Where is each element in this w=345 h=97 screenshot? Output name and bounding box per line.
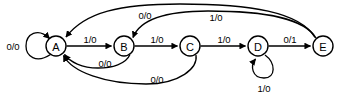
- edge-label-e-b: 1/0: [209, 12, 222, 23]
- state-node-a[interactable]: A: [46, 36, 66, 56]
- edge-label-d-e: 0/1: [283, 34, 296, 45]
- edge-path-e-a: [66, 4, 315, 38]
- transition-a-to-b: 1/0: [67, 34, 112, 47]
- state-machine-diagram: 0/0 1/0 1/0 1/0 0/1 1/0 0/: [0, 0, 345, 97]
- edge-label-a-a: 0/0: [6, 41, 19, 52]
- edge-label-e-a: 0/0: [138, 10, 151, 21]
- edge-label-b-c: 1/0: [150, 34, 163, 45]
- state-node-e[interactable]: E: [313, 36, 333, 56]
- state-label-e: E: [319, 41, 326, 53]
- edge-path-c-a: [64, 55, 197, 84]
- state-label-d: D: [254, 41, 262, 53]
- transition-c-to-d: 1/0: [201, 34, 246, 47]
- state-label-c: C: [186, 41, 194, 53]
- edge-label-c-a: 0/0: [150, 74, 163, 85]
- edge-label-a-b: 1/0: [83, 34, 96, 45]
- edge-label-b-a: 0/0: [98, 58, 111, 69]
- edge-path-d-d: [253, 55, 274, 78]
- diagram-canvas: 0/0 1/0 1/0 1/0 0/1 1/0 0/: [0, 0, 345, 97]
- edge-label-c-d: 1/0: [217, 34, 230, 45]
- edge-path-b-a: [65, 55, 131, 69]
- transition-b-to-c: 1/0: [135, 34, 178, 47]
- state-node-d[interactable]: D: [248, 36, 268, 56]
- state-node-b[interactable]: B: [114, 36, 134, 56]
- state-node-c[interactable]: C: [180, 36, 200, 56]
- transition-a-to-a: 0/0: [6, 33, 50, 59]
- edge-label-d-d: 1/0: [257, 83, 270, 94]
- transition-d-to-d: 1/0: [253, 55, 274, 94]
- transition-c-to-a: 0/0: [64, 55, 197, 85]
- transition-e-to-a: 0/0: [66, 4, 315, 38]
- transition-d-to-e: 0/1: [269, 34, 311, 47]
- state-label-b: B: [120, 41, 127, 53]
- state-label-a: A: [52, 41, 60, 53]
